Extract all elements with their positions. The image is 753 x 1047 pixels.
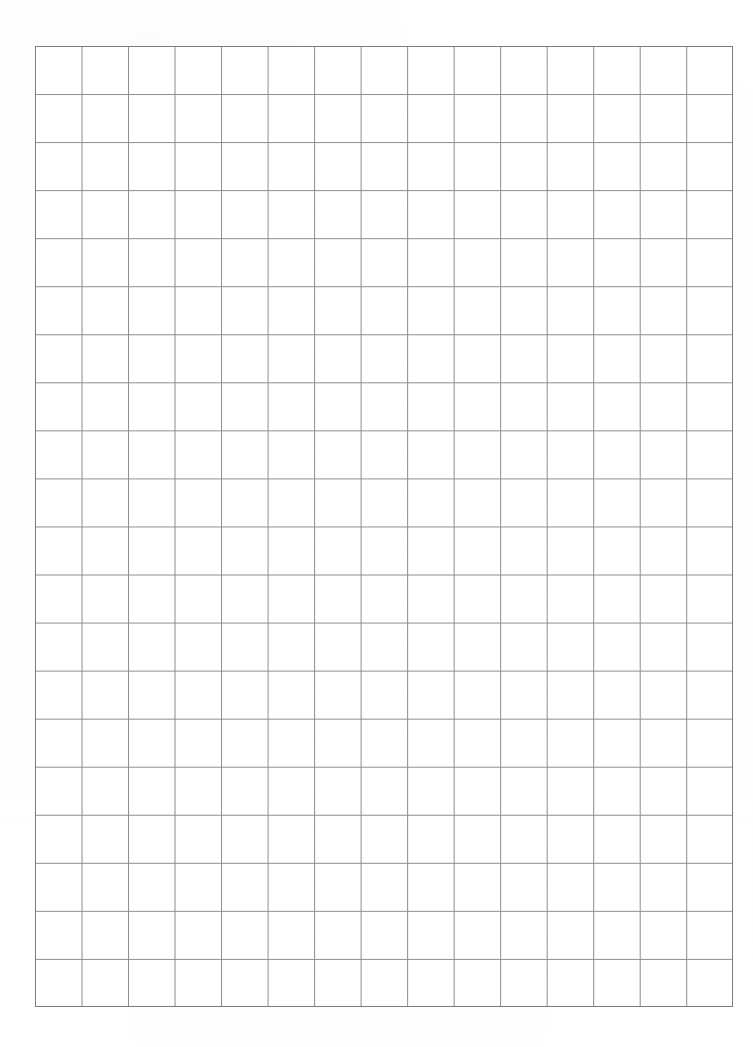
- graph-paper-grid: [35, 46, 733, 1007]
- scanned-page: [0, 0, 753, 1047]
